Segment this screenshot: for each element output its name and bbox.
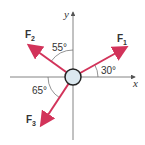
- force-f1-label: F1: [117, 33, 127, 46]
- angle-f2-label: 55°: [52, 42, 67, 53]
- y-axis-label: y: [64, 8, 69, 20]
- angle-f1-label: 30°: [101, 65, 116, 76]
- force-f1-arrow: [73, 48, 125, 77]
- force-diagram: [0, 0, 145, 145]
- body-particle: [65, 69, 81, 85]
- force-f3-label: F3: [26, 114, 36, 127]
- angle-f3-label: 65°: [32, 85, 47, 96]
- x-axis-label: x: [133, 77, 138, 89]
- force-f2-label: F2: [25, 29, 35, 42]
